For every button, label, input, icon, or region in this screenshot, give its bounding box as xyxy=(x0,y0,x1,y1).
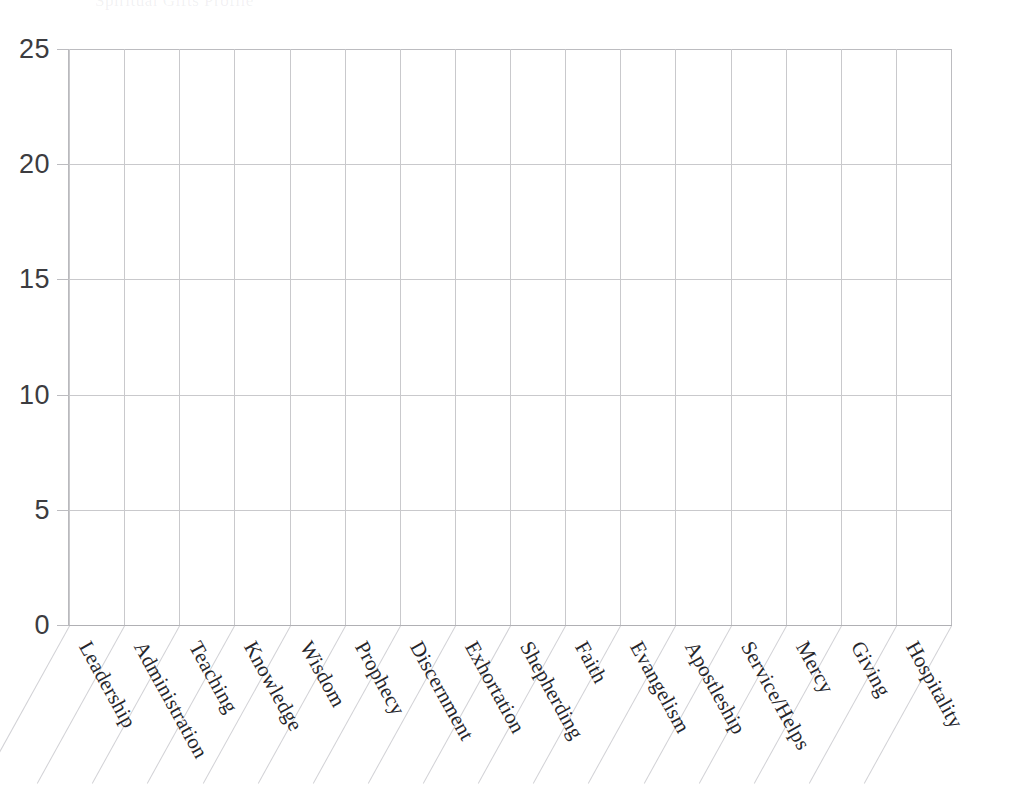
y-tick-label: 20 xyxy=(0,149,50,180)
x-axis-line xyxy=(57,625,952,626)
y-tick-label: 0 xyxy=(0,610,50,641)
y-tick-label: 5 xyxy=(0,494,50,525)
gridline-vertical xyxy=(620,49,621,625)
y-tick-mark xyxy=(57,625,69,626)
y-tick-label: 15 xyxy=(0,264,50,295)
gridline-vertical xyxy=(731,49,732,625)
gridline-vertical xyxy=(510,49,511,625)
x-category-label: Faith xyxy=(569,637,612,688)
y-tick-mark xyxy=(57,279,69,280)
x-category-label: Teaching xyxy=(183,637,243,718)
y-tick-mark xyxy=(57,395,69,396)
gridline-vertical xyxy=(290,49,291,625)
gridline-vertical xyxy=(675,49,676,625)
gridline-vertical xyxy=(69,49,70,625)
gridline-vertical xyxy=(786,49,787,625)
gridline-vertical xyxy=(841,49,842,625)
y-axis-line xyxy=(68,49,69,626)
gridline-vertical xyxy=(565,49,566,625)
x-category-label: Prophecy xyxy=(349,637,410,720)
gridline-vertical xyxy=(345,49,346,625)
y-tick-mark xyxy=(57,49,69,50)
y-tick-label: 10 xyxy=(0,379,50,410)
gridline-vertical xyxy=(455,49,456,625)
gridline-vertical xyxy=(179,49,180,625)
gridline-vertical xyxy=(400,49,401,625)
y-tick-mark xyxy=(57,164,69,165)
x-category-label: Hospitality xyxy=(900,637,968,733)
gridline-vertical xyxy=(951,49,952,625)
spiritual-gifts-chart: Spiritual Gifts Profile 0510152025 Leade… xyxy=(0,0,1034,794)
gridline-vertical xyxy=(234,49,235,625)
gridline-vertical xyxy=(896,49,897,625)
chart-title-remnant: Spiritual Gifts Profile xyxy=(95,0,254,11)
x-category-guide-line xyxy=(0,626,70,784)
plot-area xyxy=(69,49,951,625)
y-tick-mark xyxy=(57,510,69,511)
x-category-label: Mercy xyxy=(790,637,839,698)
x-category-label: Giving xyxy=(845,637,896,701)
y-tick-label: 25 xyxy=(0,34,50,65)
gridline-vertical xyxy=(124,49,125,625)
